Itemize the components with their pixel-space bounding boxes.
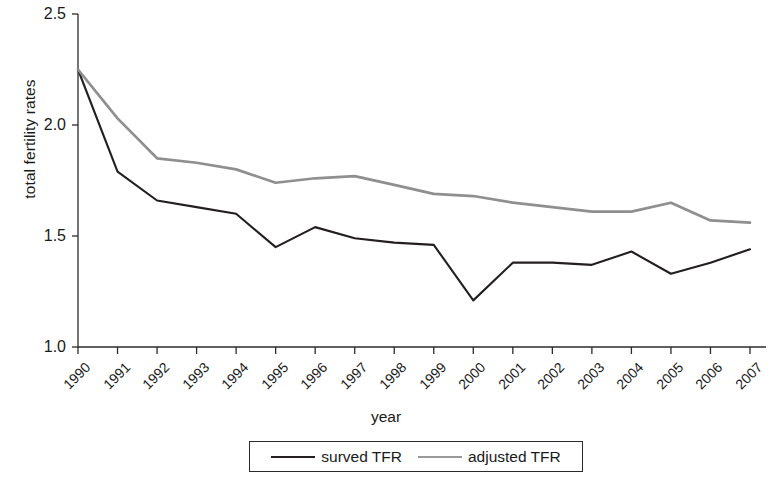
axis-lines	[72, 14, 766, 354]
legend-label-surved: surved TFR	[321, 448, 402, 466]
legend-swatch-surved	[271, 456, 315, 458]
series-lines	[78, 70, 750, 301]
series-line	[78, 70, 750, 223]
legend-entry-adjusted: adjusted TFR	[418, 448, 561, 466]
series-line	[78, 70, 750, 301]
legend-entry-surved: surved TFR	[271, 448, 402, 466]
chart-legend: surved TFR adjusted TFR	[249, 441, 583, 472]
legend-label-adjusted: adjusted TFR	[468, 448, 561, 466]
chart-container: total fertility rates year 1.01.52.02.5 …	[0, 0, 772, 479]
plot-area	[0, 0, 772, 479]
legend-swatch-adjusted	[418, 456, 462, 458]
